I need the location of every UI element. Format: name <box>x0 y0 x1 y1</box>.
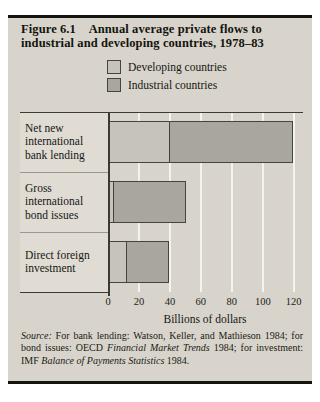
category-divider <box>20 172 108 173</box>
figure-title: Figure 6.1 Annual average private flows … <box>21 23 305 50</box>
figure-box: Figure 6.1 Annual average private flows … <box>8 18 312 381</box>
bar-segment-developing <box>108 121 170 163</box>
figure-title-line1: Figure 6.1 Annual average private flows … <box>21 23 305 37</box>
tick-label: 20 <box>134 296 145 307</box>
x-axis-label: Billions of dollars <box>163 313 246 325</box>
source-note-segment: Balance of Payments Statistics <box>41 355 164 366</box>
bottom-rule <box>8 381 312 384</box>
page: Figure 6.1 Annual average private flows … <box>0 0 320 402</box>
bar-segment-industrial <box>169 121 293 163</box>
category-label-panel: Net new international bank lendingGross … <box>20 112 108 292</box>
bar-segment-industrial <box>113 181 186 223</box>
gridline <box>293 113 295 292</box>
source-note-segment: Source: <box>21 330 52 341</box>
tick-label: 40 <box>165 296 176 307</box>
bar-row <box>108 121 293 163</box>
legend-item-developing: Developing countries <box>107 60 227 73</box>
legend-item-industrial: Industrial countries <box>107 78 227 91</box>
bar-row <box>108 241 169 283</box>
industrial-countries-swatch <box>107 78 121 92</box>
category-label: Direct foreign investment <box>20 232 108 292</box>
panel-bottom-border <box>20 292 109 293</box>
source-note-segment: Financial Market Trends <box>107 342 210 353</box>
y-axis-line <box>108 112 110 296</box>
tick-label: 0 <box>105 296 110 307</box>
category-label: Net new international bank lending <box>20 112 108 172</box>
source-note-segment: 1984. <box>164 355 189 366</box>
tick-label: 80 <box>227 296 238 307</box>
category-divider <box>20 232 108 233</box>
tick-label: 100 <box>255 296 271 307</box>
bar-row <box>108 181 186 223</box>
bar-segment-developing <box>108 241 127 283</box>
legend: Developing countries Industrial countrie… <box>107 60 227 96</box>
bar-segment-industrial <box>126 241 169 283</box>
tick-label: 60 <box>196 296 207 307</box>
source-note: Source: For bank lending: Watson, Keller… <box>21 330 303 367</box>
category-label: Gross international bond issues <box>20 172 108 232</box>
legend-label-developing: Developing countries <box>128 61 227 73</box>
stacked-bar-chart: Net new international bank lendingGross … <box>20 112 303 344</box>
chart-top-border <box>20 112 303 113</box>
developing-countries-swatch <box>107 60 121 74</box>
legend-label-industrial: Industrial countries <box>128 79 217 91</box>
figure-title-line2: industrial and developing countries, 197… <box>21 37 305 51</box>
tick-label: 120 <box>286 296 302 307</box>
plot-area <box>108 112 303 292</box>
